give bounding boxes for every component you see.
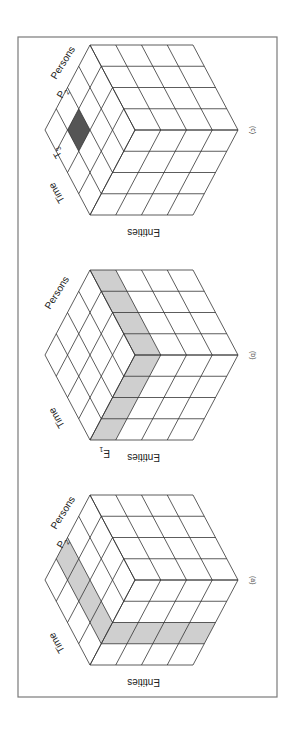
panel-a: Persons P2 Time Entities (a) [45,494,257,688]
panel-b: Persons Time E1 Entities (b) [42,270,257,463]
time-axis-label: Time [46,405,67,430]
persons-axis-label: Persons [48,494,77,531]
e1-slice-label: E1 [99,446,110,459]
tensor-cube-figure: Persons P2 Time T3 Entities (c) Persons … [0,0,294,730]
cube-c [45,45,238,215]
persons-axis-label: Persons [42,274,71,311]
time-axis-label: Time [46,180,67,205]
panel-caption: (b) [249,351,257,360]
persons-axis-label: Persons [48,44,77,81]
panel-caption: (a) [249,576,257,585]
cube-a [45,495,238,665]
time-axis-label: Time [46,630,67,655]
panel-caption: (c) [249,126,257,134]
cube-b [45,270,238,440]
entities-axis-label: Entities [127,677,160,688]
panel-c: Persons P2 Time T3 Entities (c) [45,44,257,238]
entities-axis-label: Entities [127,452,160,463]
entities-axis-label: Entities [127,227,160,238]
